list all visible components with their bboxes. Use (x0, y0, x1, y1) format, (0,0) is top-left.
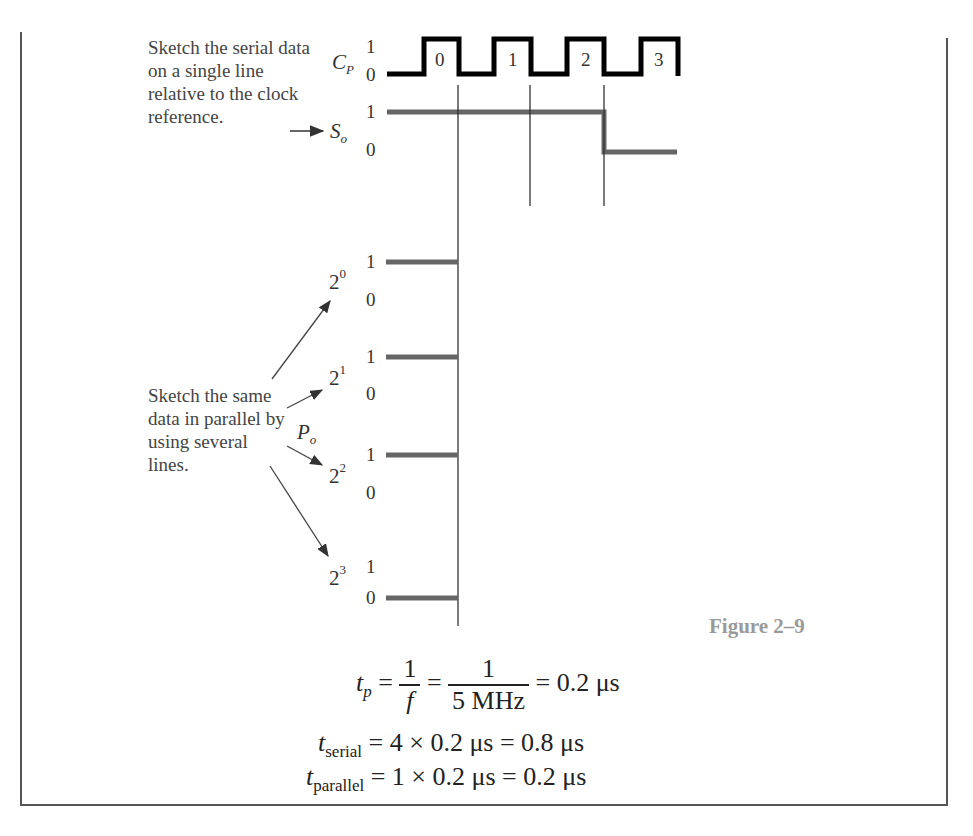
clock-high-level: 1 (366, 36, 376, 58)
bit-2-1-low-level: 0 (366, 383, 376, 405)
bit-2-3-low-level: 0 (366, 587, 376, 609)
bit-2-0-label: 20 (329, 270, 346, 295)
bit-2-2-label: 22 (329, 464, 346, 489)
clock-pulse-3-label: 3 (654, 49, 664, 71)
clock-pulse-1-label: 1 (508, 49, 518, 71)
serial-signal-label: So (330, 119, 347, 147)
fraction-one-over-freq: 15 MHz (448, 654, 529, 716)
clock-pulse-2-label: 2 (581, 49, 591, 71)
arrow-to-2-0-icon (272, 301, 330, 379)
clock-pulse-0-label: 0 (435, 49, 445, 71)
bit-2-3-label: 23 (329, 566, 346, 591)
fraction-one-over-f: 1f (399, 654, 420, 716)
serial-low-level: 0 (366, 139, 376, 161)
bit-2-1-high-level: 1 (366, 346, 376, 368)
arrow-to-2-3-icon (270, 466, 328, 556)
bit-2-2-low-level: 0 (366, 482, 376, 504)
equation-serial-time: tserial = 4 × 0.2 μs = 0.8 μs (318, 728, 584, 762)
equation-parallel-time: tparallel = 1 × 0.2 μs = 0.2 μs (306, 762, 586, 796)
serial-data-waveform (387, 112, 677, 152)
figure-label: Figure 2–9 (709, 614, 805, 639)
serial-note: Sketch the serial data on a single line … (148, 36, 318, 128)
clock-waveform (387, 39, 678, 76)
bit-2-0-low-level: 0 (366, 289, 376, 311)
clock-signal-label: CP (332, 50, 354, 78)
bit-2-0-high-level: 1 (366, 251, 376, 273)
clock-low-level: 0 (366, 64, 376, 86)
equation-period: tp = 1f = 15 MHz = 0.2 μs (356, 654, 620, 716)
parallel-note: Sketch the same data in parallel by usin… (148, 384, 293, 476)
serial-high-level: 1 (366, 101, 376, 123)
bit-2-2-high-level: 1 (366, 444, 376, 466)
bit-2-3-high-level: 1 (366, 556, 376, 578)
parallel-output-label: Po (297, 420, 316, 448)
bit-2-1-label: 21 (329, 366, 346, 391)
